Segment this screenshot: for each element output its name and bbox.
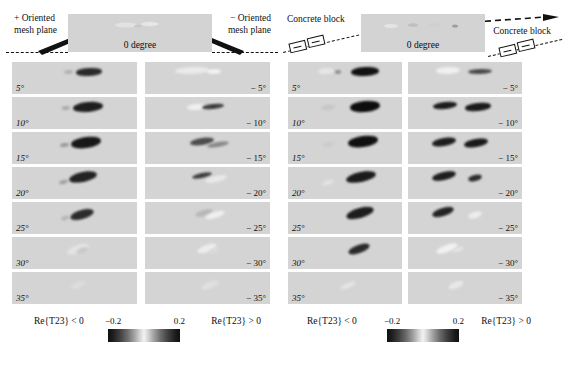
image-tile-left-right-5: − 30° — [145, 237, 270, 269]
angle-label-left-right-6: − 35° — [246, 293, 266, 303]
zero-degree-tile-right: 0 degree — [361, 14, 485, 52]
signal-blob-0 — [61, 215, 70, 221]
panel-right-footer: Re{T23} < 0 Re{T23} > 0 −0.2 0.2 — [283, 316, 565, 382]
signal-blob-1 — [202, 103, 224, 110]
angle-label-left-left-4: 25° — [16, 223, 29, 233]
concrete-block-glyph-right-icon — [498, 36, 541, 61]
image-grid-right: 5°− 5°10°− 10°15°− 15°20°− 20°25°− 25°30… — [283, 62, 565, 307]
colorbar-min-tick-right: −0.2 — [384, 316, 400, 326]
signal-blob-2 — [351, 66, 379, 76]
signal-blob-0 — [321, 104, 335, 110]
angle-label-left-right-5: − 30° — [246, 258, 266, 268]
signal-blob-0 — [59, 179, 69, 185]
image-tile-right-left-6: 35° — [288, 272, 402, 304]
colorbar-max-tick-right: 0.2 — [453, 316, 464, 326]
image-tile-right-left-5: 30° — [288, 237, 402, 269]
signal-blob-0 — [201, 279, 220, 292]
colorbar-condition-positive-left: Re{T23} > 0 — [211, 316, 261, 326]
right-annotation-oriented-mesh-plane: − Oriented mesh plane — [228, 12, 271, 36]
signal-blob-1 — [467, 210, 482, 220]
angle-label-left-left-5: 30° — [16, 258, 29, 268]
signal-blob-1 — [70, 135, 101, 150]
signal-blob-0 — [431, 169, 456, 182]
angle-label-left-left-6: 35° — [16, 293, 29, 303]
right-annotation-concrete-block: Concrete block — [493, 26, 551, 38]
image-tile-left-left-1: 10° — [12, 97, 137, 129]
signal-blob-0 — [69, 279, 86, 291]
angle-label-right-right-6: − 35° — [498, 293, 518, 303]
signal-blob-0 — [347, 241, 370, 256]
image-tile-left-right-3: − 20° — [145, 167, 270, 199]
image-tile-right-right-5: − 30° — [408, 237, 522, 269]
angle-label-right-right-0: − 5° — [503, 83, 518, 93]
image-tile-right-left-2: 15° — [288, 132, 402, 164]
signal-blob-0 — [436, 67, 460, 75]
left-annotation-concrete-block: Concrete block — [287, 14, 345, 26]
angle-label-left-right-4: − 25° — [246, 223, 266, 233]
image-tile-right-left-0: 5° — [288, 62, 402, 94]
image-tile-left-left-5: 30° — [12, 237, 137, 269]
concrete-block-glyph-left-icon — [288, 32, 331, 57]
image-tile-right-right-3: − 20° — [408, 167, 522, 199]
angle-label-left-right-0: − 5° — [251, 83, 266, 93]
image-tile-right-right-1: − 10° — [408, 97, 522, 129]
angle-label-right-left-6: 35° — [292, 293, 305, 303]
signal-blob-0 — [447, 279, 464, 291]
image-tile-left-right-1: − 10° — [145, 97, 270, 129]
colorbar-gradient-left — [108, 329, 180, 342]
signal-blob-1 — [73, 101, 104, 114]
image-tile-right-right-0: − 5° — [408, 62, 522, 94]
angle-label-right-left-4: 25° — [292, 223, 305, 233]
left-annotation-line1: + Oriented — [14, 12, 57, 24]
angle-label-right-right-4: − 25° — [498, 223, 518, 233]
image-tile-left-right-2: − 15° — [145, 132, 270, 164]
zero-degree-tile-left: 0 degree — [68, 14, 212, 52]
signal-blob-1 — [347, 134, 378, 149]
signal-blob-0 — [60, 142, 70, 147]
signal-blob-0 — [175, 66, 209, 74]
signal-blob-0 — [318, 68, 334, 75]
colorbar-gradient-right — [387, 329, 459, 342]
angle-label-right-left-2: 15° — [292, 153, 305, 163]
zero-degree-label-right: 0 degree — [407, 40, 439, 50]
image-tile-left-left-3: 20° — [12, 167, 137, 199]
angle-label-left-right-3: − 20° — [246, 188, 266, 198]
image-tile-left-left-2: 15° — [12, 132, 137, 164]
angle-label-right-right-2: − 15° — [498, 153, 518, 163]
image-tile-right-right-4: − 25° — [408, 202, 522, 234]
colorbar-condition-negative-right: Re{T23} < 0 — [307, 316, 357, 326]
colorbar-min-tick-left: −0.2 — [105, 316, 121, 326]
panel-left-footer: Re{T23} < 0 Re{T23} > 0 −0.2 0.2 — [0, 316, 283, 382]
signal-blob-0 — [431, 205, 454, 219]
angle-label-right-left-0: 5° — [292, 83, 300, 93]
colorbar-right: −0.2 0.2 — [384, 316, 464, 346]
angle-label-right-right-3: − 20° — [498, 188, 518, 198]
signal-blob-1 — [468, 69, 492, 75]
signal-blob-1 — [465, 102, 492, 113]
colorbar-left: −0.2 0.2 — [105, 316, 185, 346]
angle-label-left-right-2: − 15° — [246, 153, 266, 163]
signal-blob-1 — [350, 100, 381, 114]
signal-blob-0 — [322, 179, 335, 187]
image-tile-left-right-0: − 5° — [145, 62, 270, 94]
angle-label-left-left-0: 5° — [16, 83, 24, 93]
panel-oriented-mesh-plane: + Oriented mesh plane − Oriented mesh pl… — [0, 0, 283, 382]
left-annotation-oriented-mesh-plane: + Oriented mesh plane — [14, 12, 57, 36]
panel-concrete-block: Concrete block Concrete block 0 d — [283, 0, 565, 382]
rotation-direction-arrow-icon — [475, 14, 563, 26]
signal-blob-0 — [322, 141, 335, 148]
signal-blob-0 — [345, 204, 375, 221]
image-tile-left-left-0: 5° — [12, 62, 137, 94]
image-tile-right-right-6: − 35° — [408, 272, 522, 304]
image-grid-left: 5°− 5°10°− 10°15°− 15°20°− 20°25°− 25°30… — [0, 62, 283, 307]
angle-label-right-right-1: − 10° — [498, 118, 518, 128]
angle-label-right-left-5: 30° — [292, 258, 305, 268]
signal-blob-1 — [76, 67, 102, 76]
signal-blob-1 — [335, 70, 341, 74]
signal-blob-1 — [207, 69, 221, 74]
image-tile-right-left-4: 25° — [288, 202, 402, 234]
colorbar-max-tick-left: 0.2 — [174, 316, 185, 326]
image-tile-left-left-4: 25° — [12, 202, 137, 234]
colorbar-condition-positive-right: Re{T23} > 0 — [481, 316, 531, 326]
zero-degree-label-left: 0 degree — [124, 40, 156, 50]
